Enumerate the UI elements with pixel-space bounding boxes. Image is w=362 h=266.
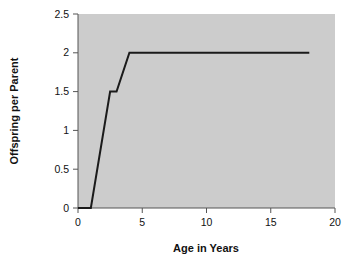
plot-area-background — [78, 14, 335, 208]
x-tick-label: 5 — [139, 216, 145, 228]
line-chart: 00.511.522.5 05101520 Age in Years Offsp… — [0, 0, 362, 266]
x-tick-label: 20 — [329, 216, 341, 228]
y-tick-label: 1 — [63, 124, 69, 136]
x-tick-label: 0 — [75, 216, 81, 228]
y-tick-label: 1.5 — [54, 85, 69, 97]
y-tick-label: 0.5 — [54, 163, 69, 175]
y-tick-label: 2.5 — [54, 8, 69, 20]
x-tick-label: 10 — [201, 216, 213, 228]
x-axis-title: Age in Years — [173, 242, 239, 254]
y-tick-label: 0 — [63, 202, 69, 214]
y-tick-label: 2 — [63, 46, 69, 58]
y-axis-title: Offspring per Parent — [8, 57, 20, 164]
x-tick-label: 15 — [265, 216, 277, 228]
chart-figure: 00.511.522.5 05101520 Age in Years Offsp… — [0, 0, 362, 266]
